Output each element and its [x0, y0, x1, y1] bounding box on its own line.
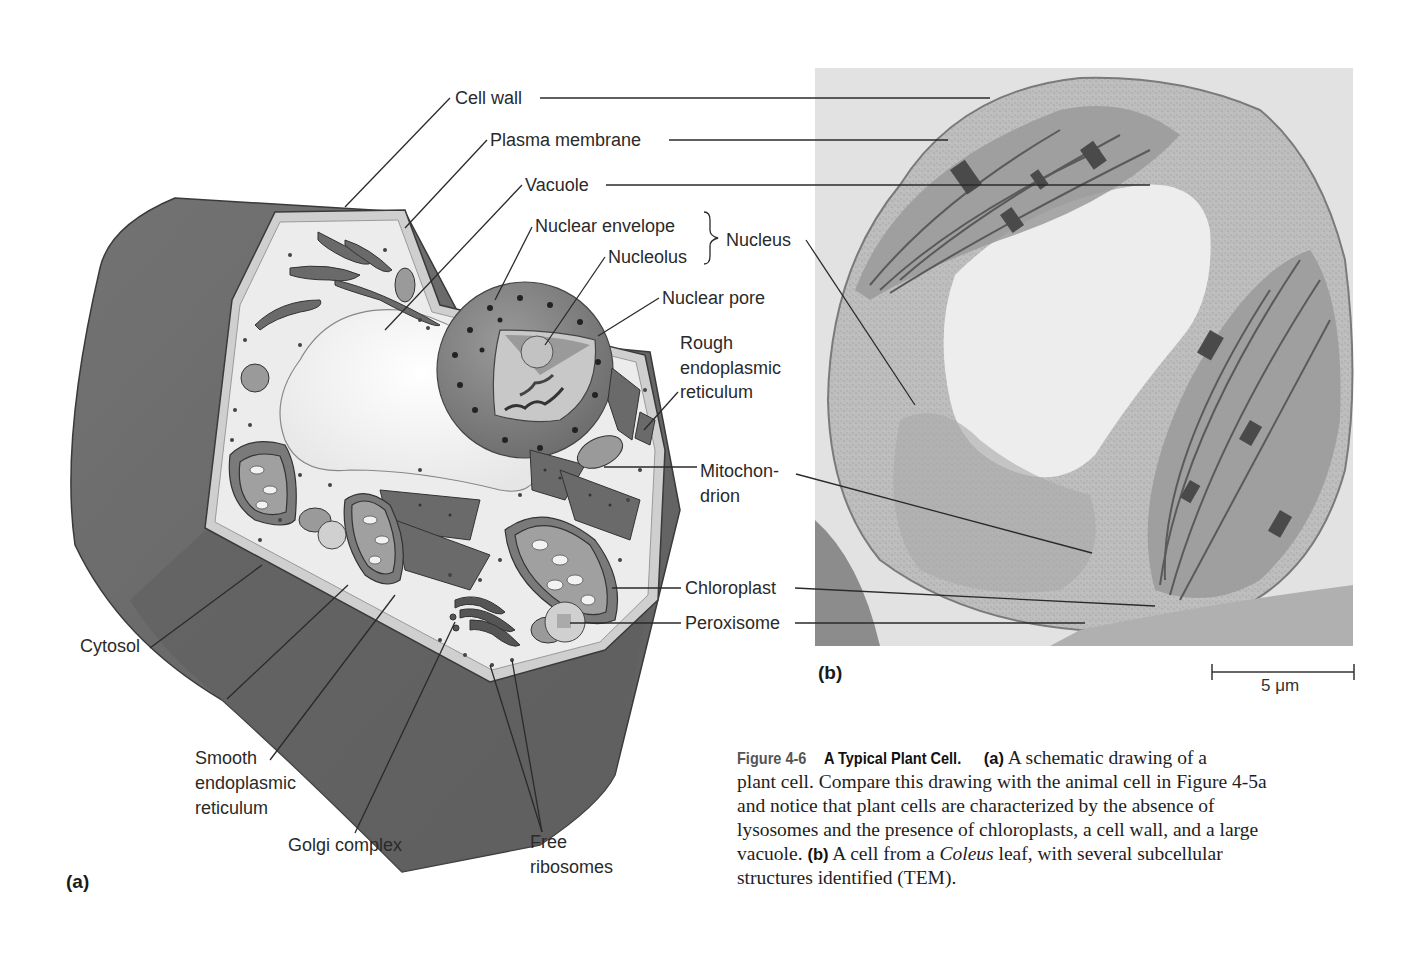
label-vacuole: Vacuole — [525, 173, 589, 197]
label-free-ribosomes-1: Free — [530, 830, 567, 854]
caption-text-a1: A schematic drawing of a — [1004, 747, 1207, 768]
label-mitochondrion-2: drion — [700, 484, 740, 508]
label-rough-er-1: Rough — [680, 331, 733, 355]
panel-b-tag: (b) — [818, 662, 842, 684]
label-cell-wall: Cell wall — [455, 86, 522, 110]
scale-bar-label: 5 μm — [1261, 676, 1299, 696]
tem-micrograph — [815, 68, 1353, 646]
label-smooth-er-2: endoplasmic — [195, 771, 296, 795]
label-peroxisome: Peroxisome — [685, 611, 780, 635]
label-free-ribosomes-2: ribosomes — [530, 855, 613, 879]
label-nucleus: Nucleus — [726, 228, 791, 252]
label-golgi: Golgi complex — [288, 833, 402, 857]
caption-text-b1: A cell from a — [828, 843, 939, 864]
label-smooth-er-1: Smooth — [195, 746, 257, 770]
caption-text-a3: and notice that plant cells are characte… — [737, 795, 1215, 816]
label-rough-er-3: reticulum — [680, 380, 753, 404]
caption-text-a2: plant cell. Compare this drawing with th… — [737, 771, 1267, 792]
label-chloroplast: Chloroplast — [685, 576, 776, 600]
label-nuclear-pore: Nuclear pore — [662, 286, 765, 310]
caption-text-a4: lysosomes and the presence of chloroplas… — [737, 819, 1258, 840]
label-mitochondrion-1: Mitochon- — [700, 459, 779, 483]
label-rough-er-2: endoplasmic — [680, 356, 781, 380]
figure-number: Figure 4-6 — [737, 746, 806, 770]
caption-part-a-label: (a) — [984, 749, 1004, 767]
figure-title: A Typical Plant Cell. — [824, 746, 961, 770]
caption-part-b-label: (b) — [807, 845, 828, 863]
figure-stage: Cell wall Plasma membrane Vacuole Nuclea… — [0, 0, 1427, 957]
label-cytosol: Cytosol — [80, 634, 140, 658]
label-smooth-er-3: reticulum — [195, 796, 268, 820]
label-plasma-membrane: Plasma membrane — [490, 128, 641, 152]
caption-text-a5: vacuole. — [737, 843, 807, 864]
panel-a-tag: (a) — [66, 871, 89, 893]
caption-species: Coleus — [939, 843, 993, 864]
caption-text-b3: structures identified (TEM). — [737, 867, 956, 888]
label-nuclear-envelope: Nuclear envelope — [535, 214, 675, 238]
caption-text-b2: leaf, with several subcellular — [994, 843, 1223, 864]
label-nucleolus: Nucleolus — [608, 245, 687, 269]
figure-caption: Figure 4-6A Typical Plant Cell.(a) A sch… — [737, 746, 1357, 890]
